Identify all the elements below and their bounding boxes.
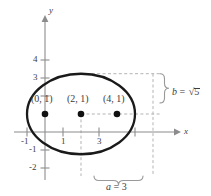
dimension-label-a: a = 3 <box>106 182 127 192</box>
x-axis-label: x <box>184 127 188 136</box>
y-tick-label-3: 3 <box>33 73 38 82</box>
y-tick-label--2: -2 <box>29 163 37 172</box>
x-tick-label-3: 3 <box>97 137 102 146</box>
point-label-4-1: (4, 1) <box>103 94 125 104</box>
x-tick-label-1: 1 <box>61 137 66 146</box>
point-4-1 <box>114 111 121 118</box>
point-label-2-1: (2, 1) <box>67 94 89 104</box>
point-2-1 <box>78 111 85 118</box>
y-tick-label-4: 4 <box>33 55 38 64</box>
dimension-a-value: 3 <box>122 181 127 192</box>
point-label-0-1: (0, 1) <box>31 94 53 104</box>
brace-b <box>160 74 169 103</box>
dimension-label-b: b = √5 <box>172 87 199 97</box>
point-0-1 <box>42 111 49 118</box>
dimension-a-equals: = <box>111 181 122 192</box>
x-tick-label--1: -1 <box>21 137 29 146</box>
x-axis-arrowhead <box>174 129 181 136</box>
dimension-b-equals: = <box>177 86 188 97</box>
sqrt-icon: √5 <box>188 87 200 97</box>
y-axis-arrowhead <box>42 15 49 22</box>
y-axis-label: y <box>49 6 53 15</box>
guide-lines <box>81 74 160 176</box>
ellipse-figure: y x -1 1 3 4 3 -1 -2 (0, 1) (2, 1) (4, 1… <box>0 0 211 196</box>
y-tick-label--1: -1 <box>29 145 37 154</box>
sqrt-bar <box>194 88 200 89</box>
